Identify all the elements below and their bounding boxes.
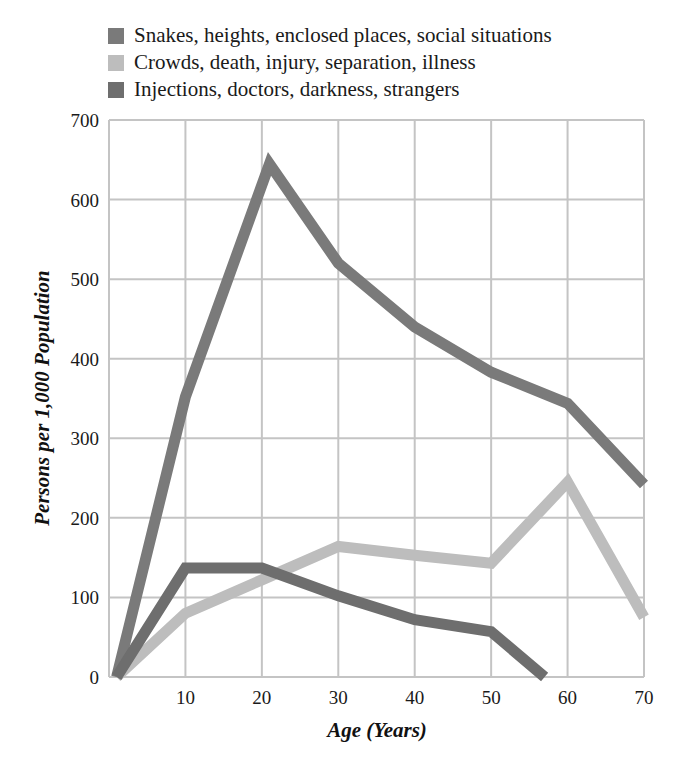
y-tick-label-0: 0: [90, 667, 100, 688]
y-tick-label-200: 200: [71, 508, 100, 529]
y-tick-label-600: 600: [71, 190, 100, 211]
x-tick-label-40: 40: [405, 687, 424, 708]
x-tick-labels: 10203040506070: [176, 687, 654, 708]
series-line-0: [117, 164, 644, 677]
x-tick-label-30: 30: [329, 687, 348, 708]
series-line-1: [117, 482, 644, 677]
line-chart: 0100200300400500600700 10203040506070 Ag…: [0, 0, 685, 772]
x-tick-label-50: 50: [482, 687, 501, 708]
y-axis-title: Persons per 1,000 Population: [30, 270, 54, 527]
x-tick-label-20: 20: [252, 687, 271, 708]
x-axis-title: Age (Years): [325, 718, 427, 742]
y-tick-labels: 0100200300400500600700: [71, 110, 100, 688]
y-tick-label-500: 500: [71, 269, 100, 290]
y-tick-label-700: 700: [71, 110, 100, 131]
x-tick-label-10: 10: [176, 687, 195, 708]
x-tick-label-60: 60: [558, 687, 577, 708]
series-lines: [117, 164, 644, 677]
y-tick-label-300: 300: [71, 428, 100, 449]
y-tick-label-400: 400: [71, 349, 100, 370]
y-tick-label-100: 100: [71, 587, 100, 608]
x-tick-label-70: 70: [635, 687, 654, 708]
